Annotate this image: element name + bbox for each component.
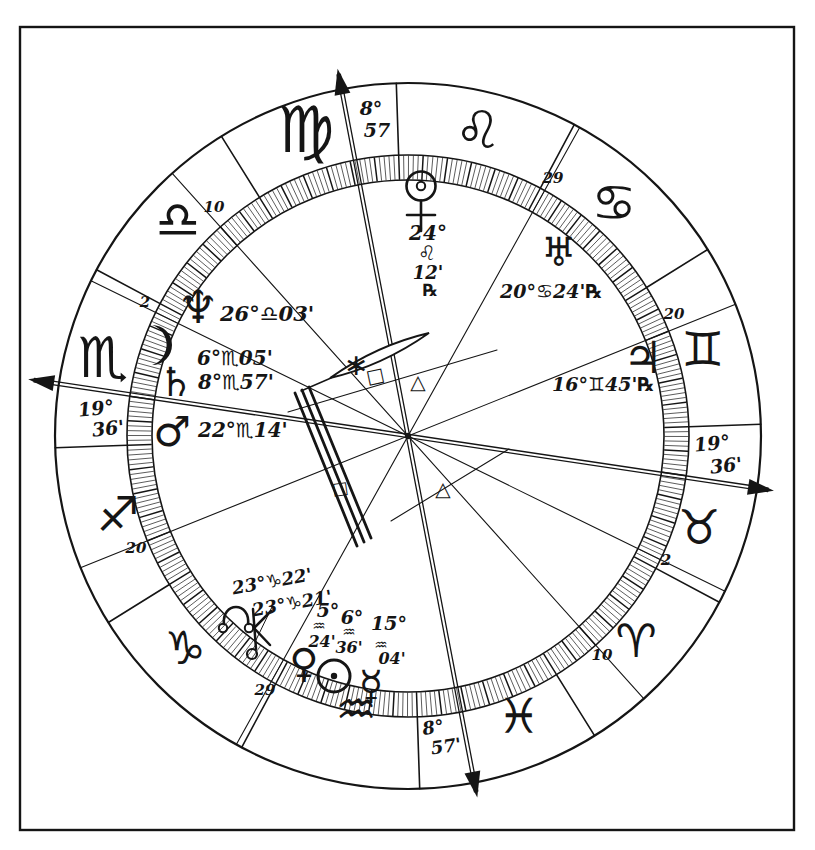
midheaven-minute: 57	[364, 119, 390, 141]
degree-tick	[577, 225, 592, 242]
degree-tick	[529, 189, 540, 209]
sign-cusp-line	[396, 83, 398, 155]
degree-tick	[630, 565, 650, 577]
jupiter-position-label: 16°♊45'℞	[552, 373, 654, 395]
chart-axes	[28, 69, 774, 798]
degree-tick	[605, 256, 623, 271]
degree-tick	[599, 249, 616, 264]
degree-tick	[465, 687, 470, 709]
degree-tick	[184, 590, 202, 604]
degree-tick	[430, 692, 432, 715]
degree-tick	[228, 221, 243, 239]
degree-tick	[629, 292, 649, 304]
degree-tick	[471, 164, 477, 186]
degree-tick	[660, 383, 683, 387]
degree-tick	[388, 692, 390, 715]
degree-tick	[661, 388, 684, 392]
degree-tick	[649, 524, 671, 532]
degree-tick	[646, 533, 667, 542]
degree-tick	[263, 656, 275, 676]
degree-tick	[374, 158, 377, 181]
degree-tick	[422, 156, 423, 179]
degree-tick	[150, 536, 171, 545]
degree-tick	[525, 187, 535, 207]
degree-tick	[178, 583, 197, 596]
sign-glyph-capricorn: ♑	[164, 621, 205, 675]
degree-tick	[444, 159, 447, 182]
descendant-minute: 36'	[709, 452, 743, 477]
degree-tick	[665, 450, 688, 451]
degree-tick	[520, 667, 530, 688]
degree-tick	[389, 157, 391, 180]
sign-glyph-taurus: ♉	[677, 499, 720, 555]
degree-tick	[616, 272, 635, 285]
degree-tick	[614, 268, 632, 282]
sign-cusp-line	[689, 424, 761, 426]
degree-tick	[656, 503, 678, 509]
degree-tick	[665, 427, 688, 428]
degree-tick	[345, 163, 350, 185]
trine-aspect-icon: △	[410, 370, 426, 394]
degree-tick	[232, 218, 246, 236]
degree-tick	[663, 402, 686, 405]
degree-tick	[129, 462, 152, 464]
degree-tick	[521, 185, 531, 206]
degree-tick	[624, 284, 643, 296]
degree-tick	[228, 633, 243, 651]
degree-tick	[664, 417, 687, 419]
degree-tick	[163, 560, 183, 571]
mars-icon: ♂	[153, 407, 191, 456]
degree-tick	[130, 401, 153, 404]
uranus-position-label: 20°♋24'℞	[499, 280, 602, 302]
degree-tick	[643, 323, 664, 332]
degree-tick	[641, 545, 662, 555]
degree-tick	[128, 449, 151, 450]
degree-tick	[608, 260, 626, 274]
degree-tick	[551, 649, 564, 668]
degree-tick	[496, 173, 504, 195]
sign-glyph-sagittarius: ♐	[96, 486, 139, 542]
degree-tick	[665, 422, 688, 423]
sun-position-label: 36'	[335, 638, 362, 657]
degree-tick	[425, 692, 427, 715]
degree-tick	[286, 184, 296, 205]
degree-tick	[644, 537, 665, 546]
degree-tick	[470, 685, 476, 707]
degree-tick	[443, 691, 446, 714]
degree-tick	[129, 453, 152, 455]
degree-tick	[466, 163, 471, 185]
degree-tick	[273, 191, 284, 211]
degree-tick	[659, 378, 682, 383]
degree-tick	[206, 614, 223, 630]
aspect-line-bundle	[309, 387, 371, 538]
degree-tick	[304, 176, 313, 197]
degree-tick	[154, 544, 175, 554]
degree-tick	[664, 459, 687, 461]
neptune-icon: ♆	[177, 280, 218, 334]
degree-tick	[197, 252, 214, 267]
sign-cusp-line	[108, 584, 169, 622]
degree-tick	[664, 407, 687, 409]
degree-tick	[128, 421, 151, 422]
degree-tick	[260, 198, 272, 218]
midheaven-degree: 8°	[359, 97, 383, 119]
ascendant-minute: 36'	[91, 415, 125, 440]
degree-tick	[635, 305, 655, 316]
aspect-line-bundle	[302, 390, 364, 542]
degree-tick	[559, 210, 573, 229]
degree-tick	[132, 480, 155, 484]
house-cusp-degree: 29	[542, 169, 564, 187]
degree-tick	[170, 572, 190, 584]
imum-coeli-minute: 57'	[429, 733, 462, 758]
degree-tick	[156, 548, 177, 558]
degree-tick	[524, 665, 534, 686]
degree-tick	[159, 308, 179, 318]
degree-tick	[133, 382, 156, 386]
degree-tick	[569, 636, 583, 654]
degree-tick	[663, 398, 686, 401]
degree-tick	[252, 204, 265, 223]
degree-tick	[393, 693, 394, 716]
degree-tick	[299, 178, 308, 199]
aspect-line	[301, 378, 331, 391]
degree-tick	[639, 314, 660, 324]
